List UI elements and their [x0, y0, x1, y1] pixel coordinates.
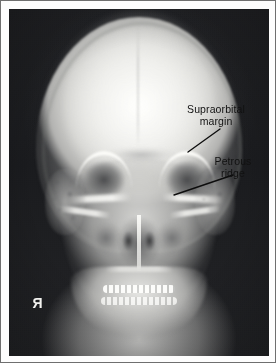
figure-frame: Я Supraorbital margin Petrous ridge: [0, 0, 276, 363]
leader-line-supraorbital-margin: [188, 129, 220, 152]
annotation-label-petrous-ridge: Petrous ridge: [199, 156, 267, 179]
radiograph-image: Я Supraorbital margin Petrous ridge: [9, 9, 269, 356]
annotation-label-supraorbital-margin: Supraorbital margin: [173, 104, 259, 127]
figure-mat: Я Supraorbital margin Petrous ridge: [1, 1, 275, 362]
annotation-leader-lines: [9, 9, 269, 356]
